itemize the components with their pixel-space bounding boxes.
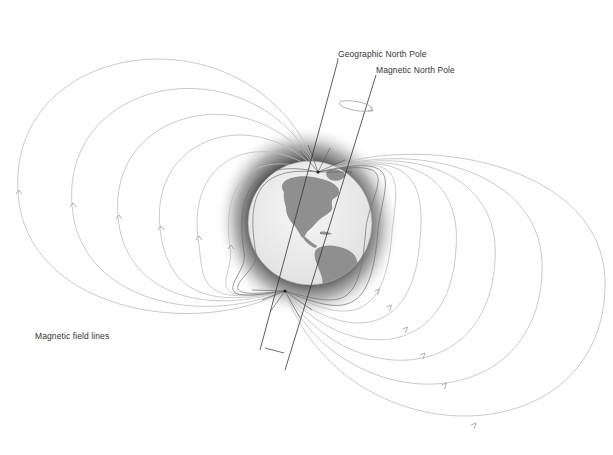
field-direction-arrow-icon (196, 236, 202, 240)
magnetic-north-pole-label: Magnetic North Pole (376, 65, 455, 75)
field-direction-arrow-icon (16, 190, 22, 194)
field-direction-arrow-icon (387, 305, 392, 311)
field-direction-arrow-icon (403, 327, 408, 333)
magnetic-field-diagram (0, 0, 613, 455)
field-direction-arrow-icon (116, 215, 122, 219)
south-magnetic-pole-point (283, 289, 286, 292)
magnetic-field-lines-label: Magnetic field lines (35, 331, 109, 341)
declination-marker (265, 348, 284, 353)
field-direction-arrow-icon (442, 383, 447, 389)
field-direction-arrow-icon (471, 423, 476, 429)
geographic-north-pole-label: Geographic North Pole (338, 49, 427, 59)
north-magnetic-pole-point (316, 170, 319, 173)
field-direction-arrow-icon (70, 203, 76, 207)
field-direction-arrow-icon (158, 226, 164, 230)
